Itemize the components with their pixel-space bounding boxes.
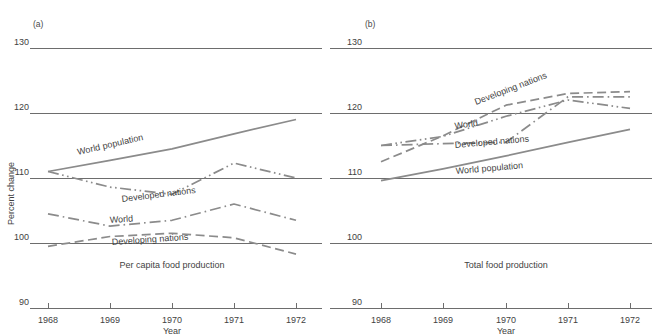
series-line-b-0 <box>381 92 630 162</box>
panel-b-caption: Total food production <box>464 260 548 270</box>
series-label-a-world: World <box>109 213 133 225</box>
panel-a-xlabel-1972: 1972 <box>286 315 306 325</box>
panel-b-tag: (b) <box>365 19 376 29</box>
series-label-b-developed-nations: Developed nations <box>454 133 530 150</box>
series-label-a-world-population: World population <box>76 132 144 157</box>
panel-a-ytick-120: 120 <box>14 102 29 112</box>
panel-a-ytick-110: 110 <box>15 167 29 177</box>
panel-a-ytick-130: 130 <box>14 37 29 47</box>
panel-b-xlabel-1971: 1971 <box>558 315 578 325</box>
series-label-a-developing-nations: Developing nations <box>111 232 189 247</box>
panel-b-ytick-90: 90 <box>352 297 362 307</box>
panel-a-caption: Per capita food production <box>119 260 224 270</box>
panel-a-ytick-90: 90 <box>19 297 29 307</box>
panel-a-tag: (a) <box>33 19 44 29</box>
panel-a-xaxis-title: Year <box>163 326 181 336</box>
series-label-b-developing-nations: Developing nations <box>473 70 549 107</box>
panel-a: (a) 130 120 110 100 90 Percent change 19… <box>6 19 322 336</box>
panel-b-ytick-100: 100 <box>347 232 362 242</box>
panel-a-xlabel-1968: 1968 <box>38 315 58 325</box>
panel-a-xlabel-1971: 1971 <box>224 315 244 325</box>
panel-b-xlabel-1970: 1970 <box>496 315 516 325</box>
panel-b-ytick-130: 130 <box>347 37 362 47</box>
panel-a-xlabel-1970: 1970 <box>162 315 182 325</box>
panel-b-xlabel-1972: 1972 <box>620 315 640 325</box>
series-label-a-developed-nations: Developed nations <box>121 185 197 204</box>
series-line-a-2 <box>48 204 296 226</box>
chart-svg: (a) 130 120 110 100 90 Percent change 19… <box>0 0 658 336</box>
panel-a-ylabel: Percent change <box>6 162 16 225</box>
panel-b-ytick-110: 110 <box>348 167 362 177</box>
panel-b: (b) 130 120 110 100 90 1968 1969 1970 19… <box>330 19 652 336</box>
panel-a-xlabel-1969: 1969 <box>100 315 120 325</box>
panel-b-xaxis-title: Year <box>497 326 515 336</box>
series-label-b-world-population: World population <box>455 160 523 176</box>
panel-a-ytick-100: 100 <box>14 232 29 242</box>
panel-b-ytick-120: 120 <box>347 102 362 112</box>
panel-b-xlabel-1969: 1969 <box>433 315 453 325</box>
panel-b-xlabel-1968: 1968 <box>371 315 391 325</box>
figure-container: (a) 130 120 110 100 90 Percent change 19… <box>0 0 658 336</box>
series-label-b-world: World <box>454 118 479 131</box>
